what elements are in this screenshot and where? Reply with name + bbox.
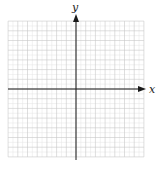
coordinate-grid: x y — [0, 0, 160, 172]
y-axis-label: y — [71, 1, 79, 14]
y-axis-arrow-icon — [73, 14, 79, 22]
x-axis-label: x — [149, 83, 156, 96]
x-axis-arrow-icon — [138, 86, 146, 92]
